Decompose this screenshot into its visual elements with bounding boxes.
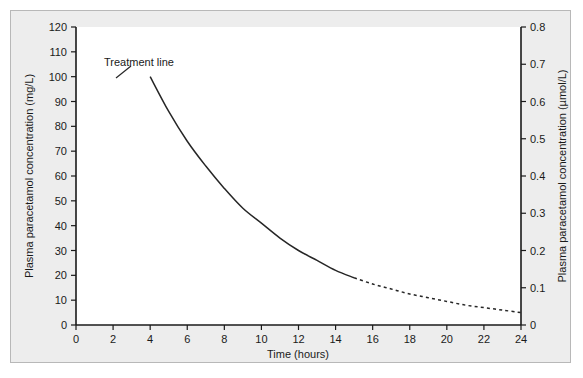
x-tick-label: 20 [441, 333, 453, 345]
x-tick-label: 16 [367, 333, 379, 345]
paracetamol-nomogram-chart: 024681012141618202224 010203040506070809… [0, 0, 583, 378]
x-tick-label: 2 [110, 333, 116, 345]
y-tick-label-left: 90 [55, 96, 67, 108]
y-tick-label-left: 30 [55, 245, 67, 257]
x-axis-ticks: 024681012141618202224 [73, 325, 527, 345]
plot-area-background [76, 27, 521, 325]
y-tick-label-right: 0.1 [530, 282, 545, 294]
y-axis-left-title: Plasma paracetamol concentration (mg/L) [23, 74, 35, 278]
x-tick-label: 18 [404, 333, 416, 345]
y-tick-label-right: 0.7 [530, 58, 545, 70]
x-axis-title: Time (hours) [267, 348, 329, 360]
y-tick-label-left: 120 [49, 21, 67, 33]
x-tick-label: 12 [292, 333, 304, 345]
x-tick-label: 22 [478, 333, 490, 345]
y-axis-left-ticks: 0102030405060708090100110120 [49, 21, 76, 331]
y-tick-label-right: 0.3 [530, 207, 545, 219]
y-tick-label-left: 10 [55, 294, 67, 306]
x-tick-label: 6 [184, 333, 190, 345]
x-tick-label: 10 [255, 333, 267, 345]
y-tick-label-left: 60 [55, 170, 67, 182]
y-tick-label-left: 20 [55, 269, 67, 281]
y-tick-label-right: 0.8 [530, 21, 545, 33]
treatment-line-label: Treatment line [104, 56, 174, 68]
x-tick-label: 24 [515, 333, 527, 345]
y-tick-label-left: 40 [55, 220, 67, 232]
y-axis-right-title: Plasma paracetamol concentration (µmol/L… [556, 70, 568, 283]
y-tick-label-right: 0 [530, 319, 536, 331]
x-tick-label: 8 [221, 333, 227, 345]
y-tick-label-right: 0.2 [530, 245, 545, 257]
y-tick-label-right: 0.6 [530, 96, 545, 108]
y-tick-label-left: 110 [49, 46, 67, 58]
x-tick-label: 4 [147, 333, 153, 345]
y-tick-label-left: 100 [49, 71, 67, 83]
y-tick-label-left: 0 [61, 319, 67, 331]
y-tick-label-left: 70 [55, 145, 67, 157]
y-tick-label-right: 0.4 [530, 170, 545, 182]
y-tick-label-left: 80 [55, 120, 67, 132]
y-tick-label-left: 50 [55, 195, 67, 207]
y-tick-label-right: 0.5 [530, 133, 545, 145]
x-tick-label: 0 [73, 333, 79, 345]
figure-container: 024681012141618202224 010203040506070809… [0, 0, 583, 378]
x-tick-label: 14 [329, 333, 341, 345]
y-axis-right-ticks: 00.10.20.30.40.50.60.70.8 [521, 21, 545, 331]
